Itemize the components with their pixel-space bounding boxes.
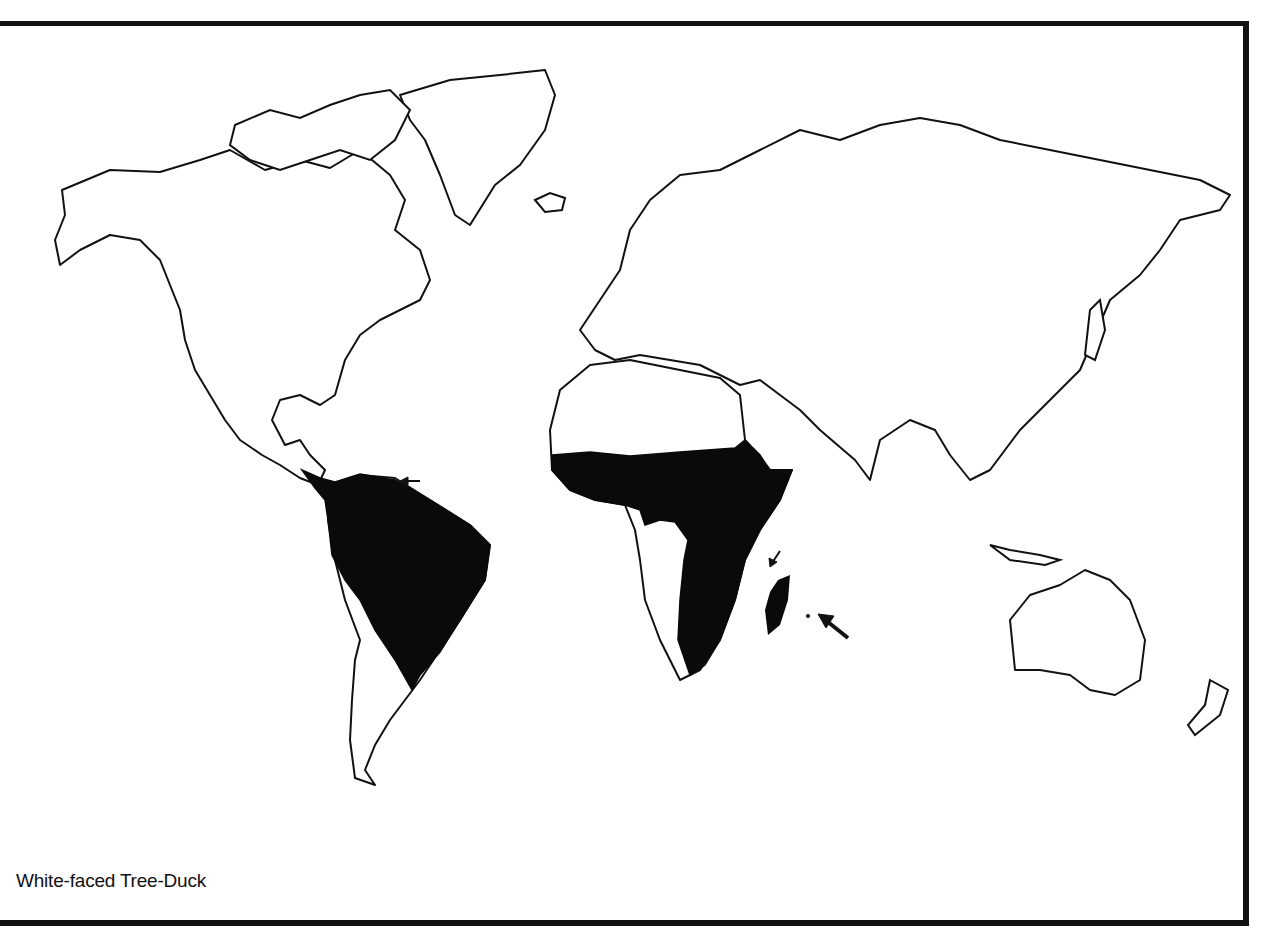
arrow-comoros-icon [769, 551, 780, 567]
world-map [0, 0, 1283, 946]
greenland [400, 70, 555, 225]
north-america [55, 150, 430, 485]
indonesia [990, 545, 1060, 565]
map-caption: White-faced Tree-Duck [16, 870, 206, 892]
range-south-america [302, 470, 490, 690]
new-zealand [1188, 680, 1228, 735]
mascarene-islands [806, 614, 810, 618]
australia [1010, 570, 1145, 695]
range-madagascar [765, 575, 790, 635]
arctic-islands [230, 90, 410, 170]
arrow-mascarenes-icon [818, 614, 848, 638]
iceland [535, 193, 565, 212]
